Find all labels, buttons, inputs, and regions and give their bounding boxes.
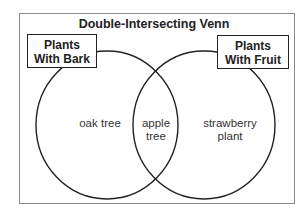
region-intersection: apple tree [135,117,177,143]
set-label-plants-with-fruit: Plants With Fruit [217,35,289,69]
set-label-line1: Plants [28,38,96,52]
set-label-line1: Plants [218,39,288,53]
region-text: apple [135,117,177,130]
region-text: oak tree [60,117,140,130]
set-label-line2: With Bark [28,52,96,66]
region-text: plant [190,130,270,143]
venn-circles [0,0,308,218]
region-left-only: oak tree [60,117,140,130]
set-label-line2: With Fruit [218,53,288,67]
set-label-plants-with-bark: Plants With Bark [27,34,97,68]
region-text: tree [135,130,177,143]
region-text: strawberry [190,117,270,130]
region-right-only: strawberry plant [190,117,270,143]
